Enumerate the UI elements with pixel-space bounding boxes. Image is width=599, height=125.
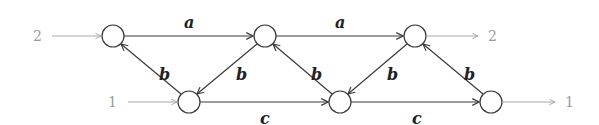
label-a-2: a: [335, 13, 345, 32]
node-bottom-3: [480, 91, 502, 113]
input-port-bottom: 1: [108, 94, 177, 110]
input-bottom-label: 1: [108, 94, 117, 110]
output-port-bottom: 1: [503, 94, 574, 110]
node-top-2: [254, 25, 276, 47]
node-top-1: [102, 25, 124, 47]
node-top-3: [404, 25, 426, 47]
output-port-top: 2: [427, 28, 497, 44]
label-b-4: b: [387, 65, 398, 84]
output-bottom-label: 1: [565, 94, 574, 110]
node-bottom-1: [178, 91, 200, 113]
label-c-2: c: [412, 109, 422, 125]
label-b-2: b: [236, 65, 247, 84]
edge-b-3: [273, 44, 332, 94]
label-c-1: c: [260, 109, 270, 125]
output-top-label: 2: [488, 28, 497, 44]
label-b-3: b: [311, 65, 322, 84]
input-port-top: 2: [33, 28, 101, 44]
edge-b-1: [121, 44, 181, 94]
graph-diagram: 2 1 2 1 a a b b b b b c c: [0, 0, 599, 125]
label-a-1: a: [184, 13, 194, 32]
label-b-5: b: [464, 65, 475, 84]
label-b-1: b: [159, 65, 170, 84]
input-top-label: 2: [33, 28, 42, 44]
edge-b-2: [197, 44, 257, 94]
node-bottom-2: [329, 91, 351, 113]
